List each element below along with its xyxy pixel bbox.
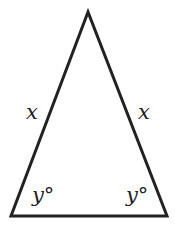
- left-angle-label: y°: [31, 183, 54, 207]
- left-side-label: x: [26, 100, 38, 124]
- right-side-label: x: [138, 100, 150, 124]
- right-angle-label: y°: [125, 183, 148, 207]
- isosceles-triangle-diagram: x x y° y°: [0, 0, 175, 228]
